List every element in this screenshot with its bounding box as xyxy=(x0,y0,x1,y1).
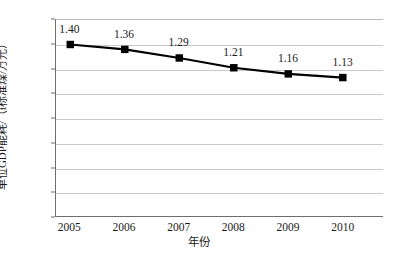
data-point-marker xyxy=(67,41,74,48)
x-axis-tick-label: 2009 xyxy=(258,222,318,234)
y-axis-title: 单位GDP能耗/（t标准煤/万元） xyxy=(0,38,8,198)
data-point-marker xyxy=(339,74,346,81)
data-point-label: 1.29 xyxy=(157,37,201,49)
x-axis-tick-label: 2005 xyxy=(39,222,99,234)
data-point-label: 1.36 xyxy=(102,29,146,41)
x-axis-tick-label: 2010 xyxy=(313,222,373,234)
x-axis-title: 年份 xyxy=(0,237,397,249)
data-point-label: 1.16 xyxy=(266,53,310,65)
x-axis-tick-label: 2008 xyxy=(203,222,263,234)
data-point-label: 1.13 xyxy=(321,57,365,69)
data-point-label: 1.40 xyxy=(47,24,91,36)
data-point-marker xyxy=(176,54,183,61)
data-point-marker xyxy=(121,46,128,53)
data-point-marker xyxy=(285,70,292,77)
chart-figure: 1.61.41.21.00.80.60.40.20 20052006200720… xyxy=(0,0,397,260)
data-point-label: 1.21 xyxy=(211,47,255,59)
x-axis-tick-label: 2007 xyxy=(149,222,209,234)
y-axis-title-text: 单位GDP能耗/（t标准煤/万元） xyxy=(0,38,8,190)
data-point-marker xyxy=(230,64,237,71)
x-axis-tick-label: 2006 xyxy=(94,222,154,234)
